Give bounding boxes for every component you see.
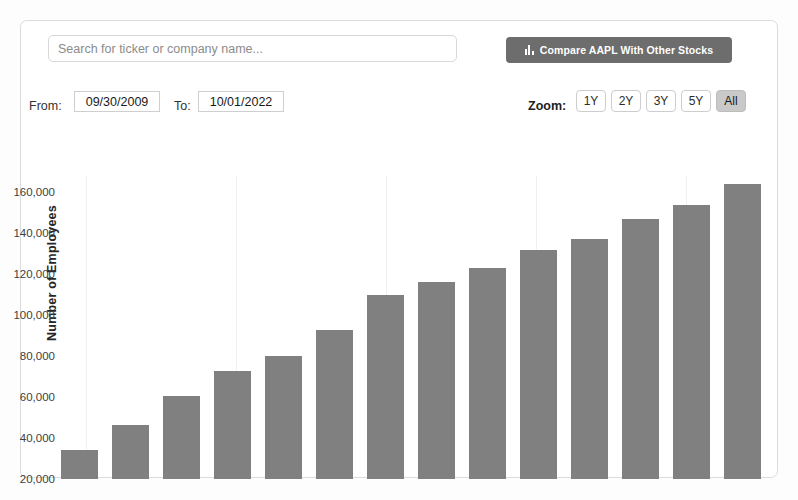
zoom-button-3y[interactable]: 3Y (646, 90, 676, 112)
bar[interactable] (571, 239, 608, 479)
bar[interactable] (163, 396, 200, 479)
bar[interactable] (112, 425, 149, 479)
stock-chart-card: Compare AAPL With Other Stocks From: To:… (20, 20, 778, 478)
y-axis-tick-label: 60,000 (20, 391, 55, 403)
zoom-button-1y[interactable]: 1Y (576, 90, 606, 112)
y-axis-tick-label: 20,000 (20, 473, 55, 485)
bar[interactable] (265, 356, 302, 479)
y-axis-tick-label: 160,000 (13, 186, 55, 198)
bar[interactable] (316, 330, 353, 479)
zoom-button-5y[interactable]: 5Y (681, 90, 711, 112)
bar[interactable] (367, 295, 404, 479)
to-label: To: (174, 100, 191, 113)
bar[interactable] (622, 219, 659, 479)
y-axis-tick-label: 140,000 (13, 227, 55, 239)
bar[interactable] (469, 268, 506, 479)
zoom-button-group: 1Y 2Y 3Y 5Y All (576, 90, 746, 112)
bar-chart-icon (525, 45, 534, 55)
compare-stocks-button[interactable]: Compare AAPL With Other Stocks (506, 37, 732, 63)
chart: Number of Employees 20,00040,00060,00080… (21, 121, 779, 479)
y-axis-tick-label: 40,000 (20, 432, 55, 444)
bar-series (61, 176, 761, 479)
compare-stocks-label: Compare AAPL With Other Stocks (540, 44, 713, 56)
y-axis-tick-label: 80,000 (20, 350, 55, 362)
zoom-button-2y[interactable]: 2Y (611, 90, 641, 112)
y-axis-tick-label: 100,000 (13, 309, 55, 321)
bar[interactable] (214, 371, 251, 479)
zoom-label: Zoom: (528, 100, 566, 113)
bar[interactable] (520, 250, 557, 479)
date-range-controls: From: To: Zoom: 1Y 2Y 3Y 5Y All (21, 73, 779, 121)
zoom-button-all[interactable]: All (716, 90, 746, 112)
bar[interactable] (673, 205, 710, 479)
app-root: Compare AAPL With Other Stocks From: To:… (0, 0, 798, 500)
toolbar: Compare AAPL With Other Stocks (21, 21, 779, 73)
plot-area: 20,00040,00060,00080,000100,000120,00014… (61, 176, 761, 479)
bar[interactable] (418, 282, 455, 479)
bar[interactable] (61, 450, 98, 479)
from-date-input[interactable] (74, 91, 160, 112)
y-axis-tick-label: 120,000 (13, 268, 55, 280)
from-label: From: (29, 100, 62, 113)
search-input[interactable] (48, 35, 457, 62)
to-date-input[interactable] (198, 91, 284, 112)
bar[interactable] (724, 184, 761, 479)
